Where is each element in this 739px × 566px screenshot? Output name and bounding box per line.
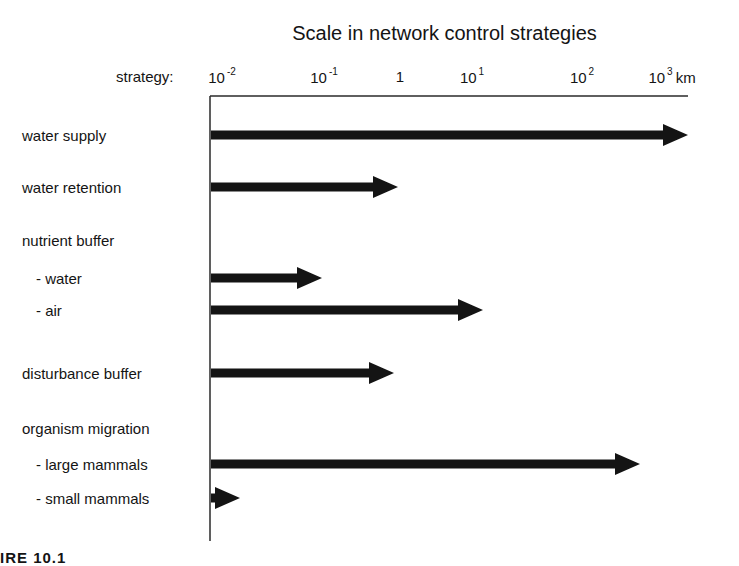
scale-arrow: [211, 267, 322, 289]
arrows-group: [211, 124, 688, 509]
scale-arrow: [211, 453, 640, 475]
scale-arrow: [211, 487, 240, 509]
scale-arrow: [211, 176, 398, 198]
figure-caption: IRE 10.1: [0, 549, 66, 566]
scale-arrow: [211, 124, 688, 146]
scale-arrow: [211, 362, 394, 384]
scale-arrow: [211, 299, 483, 321]
